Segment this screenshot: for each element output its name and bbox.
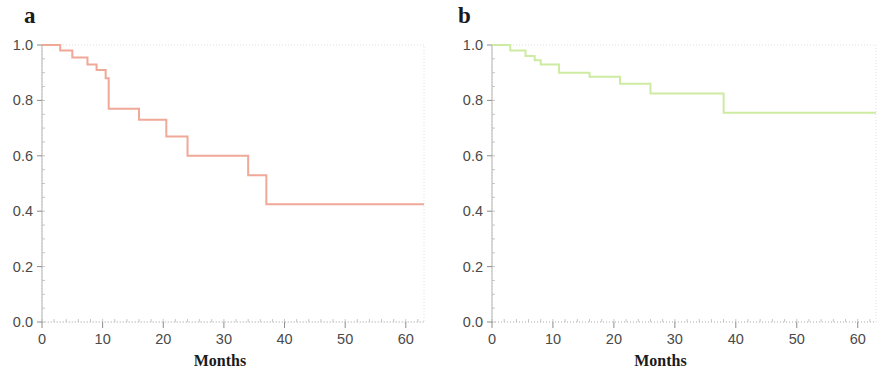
x-tick-label: 40: [276, 331, 292, 347]
x-tick-label: 60: [398, 331, 414, 347]
x-tick-label: 30: [667, 331, 683, 347]
y-tick-label: 1.0: [13, 37, 33, 53]
y-tick-label: 1.0: [463, 37, 483, 53]
x-tick-label: 20: [155, 331, 171, 347]
panel-a-x-axis-label: Months: [0, 352, 440, 370]
y-tick-label: 0.6: [13, 148, 33, 164]
survival-step-curve: [42, 45, 424, 204]
x-tick-label: 40: [728, 331, 744, 347]
x-tick-label: 0: [38, 331, 46, 347]
y-tick-label: 0.0: [13, 314, 33, 330]
x-tick-label: 10: [95, 331, 111, 347]
x-tick-label: 20: [606, 331, 622, 347]
x-tick-label: 50: [337, 331, 353, 347]
y-tick-label: 0.2: [463, 259, 483, 275]
x-tick-label: 60: [850, 331, 866, 347]
y-tick-label: 0.6: [463, 148, 483, 164]
y-tick-label: 0.4: [13, 203, 33, 219]
panel-b-x-axis-label: Months: [440, 352, 881, 370]
y-tick-label: 0.8: [463, 92, 483, 108]
x-tick-label: 50: [789, 331, 805, 347]
y-tick-label: 0.8: [13, 92, 33, 108]
plot-frame: [42, 45, 424, 322]
plot-frame: [492, 45, 876, 322]
panel-a: a 01020304050600.00.20.40.60.81.0 Months: [0, 0, 440, 375]
x-tick-label: 0: [488, 331, 496, 347]
y-tick-label: 0.0: [463, 314, 483, 330]
x-tick-label: 10: [545, 331, 561, 347]
x-tick-label: 30: [216, 331, 232, 347]
panel-b-plot: 01020304050600.00.20.40.60.81.0: [440, 0, 881, 375]
panel-a-plot: 01020304050600.00.20.40.60.81.0: [0, 0, 440, 375]
figure-container: a 01020304050600.00.20.40.60.81.0 Months…: [0, 0, 881, 375]
y-tick-label: 0.4: [463, 203, 483, 219]
survival-step-curve: [492, 45, 876, 113]
panel-b: b 01020304050600.00.20.40.60.81.0 Months: [440, 0, 880, 375]
y-tick-label: 0.2: [13, 259, 33, 275]
